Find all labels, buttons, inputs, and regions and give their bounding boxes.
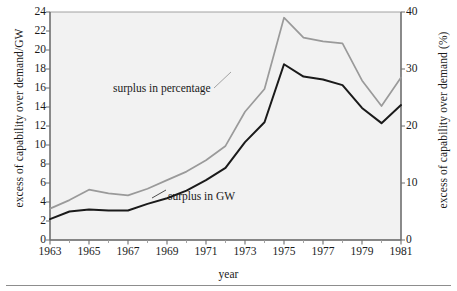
x-axis-tick-labels: 1963196519671969197119731975197719791981 bbox=[0, 0, 457, 291]
chart-figure: excess of capability over demand/GW exce… bbox=[0, 0, 457, 291]
page-footer-rule bbox=[6, 285, 451, 286]
x-axis-tick-label: 1981 bbox=[371, 245, 431, 257]
annotation-surplus-in-percentage: surplus in percentage bbox=[113, 82, 211, 94]
annotation-surplus-in-gw: surplus in GW bbox=[168, 190, 235, 202]
